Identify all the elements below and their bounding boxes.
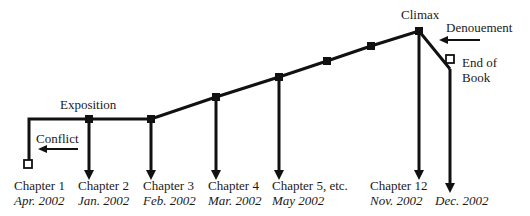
end-date: Dec. 2002: [435, 193, 488, 208]
chapter-label: Chapter 5, etc.: [272, 178, 348, 193]
chapter-label: Chapter 4: [208, 178, 261, 193]
end-label-line1: End of: [462, 55, 497, 70]
chapter-date: Jan. 2002: [78, 193, 129, 208]
chapter-date: Dec. 2002: [435, 193, 488, 208]
chapter-3: Chapter 3 Feb. 2002: [143, 178, 196, 208]
chapter-12: Chapter 12 Nov. 2002: [370, 178, 427, 208]
chapter-date: Nov. 2002: [370, 193, 427, 208]
end-label-line2: Book: [462, 70, 497, 85]
chapter-1: Chapter 1 Apr. 2002: [14, 178, 65, 208]
chapter-label: Chapter 2: [78, 178, 129, 193]
chapter-date: Feb. 2002: [143, 193, 196, 208]
climax-label: Climax: [401, 7, 439, 22]
chapter-label: Chapter 3: [143, 178, 196, 193]
chapter-date: Apr. 2002: [14, 193, 65, 208]
start-node: [24, 160, 32, 168]
end-node: [446, 55, 454, 63]
chapter-label: Chapter 12: [370, 178, 427, 193]
chapter-date: May 2002: [272, 193, 348, 208]
exposition-label: Exposition: [60, 97, 116, 112]
conflict-label: Conflict: [36, 131, 79, 146]
chapter-4: Chapter 4 Mar. 2002: [208, 178, 261, 208]
chapter-arrows: [89, 31, 450, 185]
denouement-label: Denouement: [446, 20, 512, 35]
chapter-2: Chapter 2 Jan. 2002: [78, 178, 129, 208]
chapter-label: Chapter 1: [14, 178, 65, 193]
chapter-date: Mar. 2002: [208, 193, 261, 208]
plot-nodes: [85, 27, 423, 123]
chapter-5: Chapter 5, etc. May 2002: [272, 178, 348, 208]
end-of-book-label: End of Book: [462, 55, 497, 85]
